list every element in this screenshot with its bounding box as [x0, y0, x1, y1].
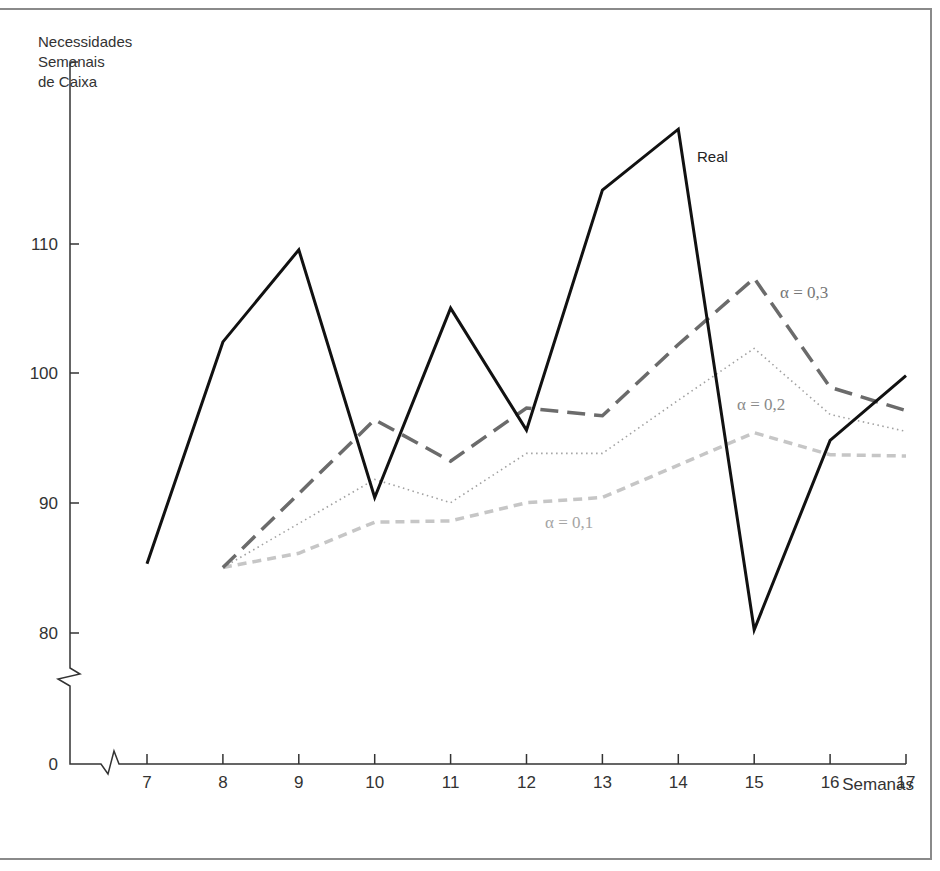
x-tick-12: 12	[517, 773, 536, 792]
line-chart: 110 100 90 80 0 7891011121314151617 Sema…	[0, 0, 940, 871]
y-tick-110: 110	[31, 235, 58, 254]
y-tick-0: 0	[49, 755, 58, 774]
x-ticks	[147, 754, 906, 764]
label-alpha-0-1: α = 0,1	[545, 513, 593, 532]
y-ticks	[70, 244, 79, 633]
x-tick-8: 8	[218, 773, 227, 792]
x-tick-labels: 7891011121314151617	[142, 773, 915, 792]
x-tick-9: 9	[294, 773, 303, 792]
y-tick-labels: 110 100 90 80 0	[30, 235, 58, 774]
series-alpha-0-2-line	[223, 348, 906, 567]
y-tick-90: 90	[39, 494, 58, 513]
y-axis	[58, 62, 906, 774]
y-tick-100: 100	[30, 364, 58, 383]
label-alpha-0-3: α = 0,3	[780, 283, 828, 302]
label-alpha-0-2: α = 0,2	[737, 395, 785, 414]
x-tick-15: 15	[745, 773, 764, 792]
series-alpha-0-1-line	[223, 433, 906, 568]
x-tick-16: 16	[821, 773, 840, 792]
x-tick-7: 7	[142, 773, 151, 792]
y-tick-80: 80	[39, 624, 58, 643]
x-tick-11: 11	[442, 773, 460, 792]
label-real: Real	[697, 148, 728, 165]
x-tick-10: 10	[365, 773, 384, 792]
x-axis-title: Semanas	[842, 775, 914, 794]
x-tick-14: 14	[669, 773, 688, 792]
series-real-line	[147, 129, 906, 630]
x-tick-13: 13	[593, 773, 612, 792]
